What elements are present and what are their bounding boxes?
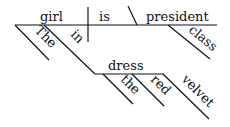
president-mod-word: class: [186, 22, 221, 54]
predicate-word: president: [146, 9, 209, 24]
subject-word: girl: [40, 9, 63, 24]
complement-divider: [128, 6, 137, 25]
preposition-word: in: [68, 27, 88, 47]
verb-word: is: [99, 9, 110, 24]
prep-object-word: dress: [108, 58, 144, 73]
preposition-line: [44, 25, 95, 74]
sentence-diagram: girl is president The in dress the red v…: [0, 0, 230, 127]
dress-mod-velvet-word: velvet: [178, 71, 218, 111]
